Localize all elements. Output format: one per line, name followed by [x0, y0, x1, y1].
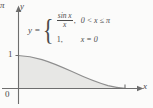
case-1-condition: 0 < x ≤ π	[81, 16, 110, 25]
fraction-numerator: sin x	[57, 12, 73, 20]
case-1-comma: ,	[74, 16, 76, 25]
shaded-area-under-curve	[18, 56, 125, 89]
formula-lhs: y =	[28, 25, 40, 35]
case-2-value: 1,	[57, 35, 63, 44]
formula-case-1: sin x x , 0 < x ≤ π	[57, 12, 110, 28]
fraction-denominator: x	[62, 21, 67, 29]
y-axis-label: y	[20, 2, 24, 11]
left-brace: {	[43, 17, 54, 40]
function-graph-figure: y x 1 0 π y = { sin x x , 0 < x ≤ π 1, x	[0, 0, 153, 108]
sinc-fraction: sin x x ,	[57, 12, 76, 29]
origin-label-zero: 0	[5, 90, 10, 99]
case-2-condition: x = 0	[81, 35, 98, 44]
piecewise-formula: y = { sin x x , 0 < x ≤ π 1, x = 0	[28, 12, 110, 47]
x-axis-label: x	[143, 82, 147, 91]
formula-cases: sin x x , 0 < x ≤ π 1, x = 0	[57, 12, 110, 47]
y-tick-label-one: 1	[8, 50, 13, 59]
fraction: sin x x	[57, 12, 73, 29]
formula-case-2: 1, x = 0	[57, 31, 110, 47]
